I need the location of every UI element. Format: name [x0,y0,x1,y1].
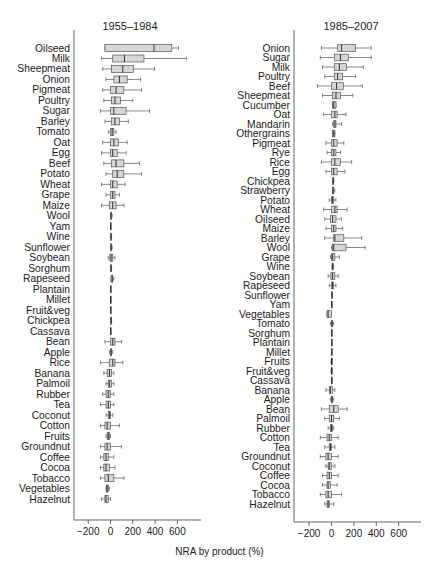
box-row-coffee: Coffee [40,452,114,463]
box-row-soybean: Soybean [29,252,115,263]
box [338,45,356,52]
box-row-fruits: Fruits [44,431,110,442]
box-row-rubber: Rubber [36,389,114,400]
box-row-coconut: Coconut [32,410,113,421]
category-label: Yam [50,221,70,232]
category-label: Tea [53,399,70,410]
box-row-tobacco: Tobacco [32,473,124,484]
x-tick-label: 400 [368,528,385,539]
category-label: Maize [43,200,71,211]
category-label: Milk [52,53,71,64]
box [332,168,338,175]
x-tick-label: 400 [147,526,164,537]
category-label: Cassava [30,326,70,337]
box [104,464,110,471]
category-label: Beef [49,158,70,169]
box-row-vegetables: Vegetables [19,483,109,494]
box [113,170,124,177]
box-row-cassava: Cassava [30,326,112,337]
category-label: Tomato [36,126,70,137]
box [111,181,118,188]
x-tick-label: 0 [329,528,335,539]
box-row-sugar: Sugar [43,105,150,116]
category-label: Poultry [38,95,71,106]
x-tick-label: 0 [108,526,114,537]
box-row-barley: Barley [41,116,129,127]
category-label: Potato [40,168,70,179]
box [333,102,336,109]
box-row-hazelnut: Hazelnut [29,494,110,505]
box-row-sunflower: Sunflower [24,242,112,253]
category-label: Sheepmeat [17,63,70,74]
category-label: Rubber [36,389,70,400]
category-label: Vegetables [19,483,70,494]
box-row-milk: Milk [52,53,187,64]
x-tick-label: −200 [298,528,321,539]
category-label: Wool [47,210,70,221]
panel-title: 1985–2007 [323,20,378,32]
category-label: Hazelnut [249,499,290,510]
category-label: Wine [47,231,71,242]
category-label: Fruit&veg [26,305,70,316]
box [334,54,348,61]
box [327,482,330,489]
x-tick-label: 600 [169,526,186,537]
box-row-bean: Bean [46,336,122,347]
category-label: Rapeseed [23,273,70,284]
box [111,149,118,156]
box [105,45,172,52]
box [332,140,338,147]
box [334,73,342,80]
category-label: Tobacco [32,473,71,484]
box [330,216,336,223]
box-row-tomato: Tomato [36,126,116,137]
box-row-palmoil: Palmoil [36,378,114,389]
panel-1: 1955–1984−2000200400600OilseedMilkSheepm… [17,20,201,537]
category-label: Chickpea [27,315,70,326]
box-row-oilseed: Oilseed [35,43,178,54]
box-row-pigmeat: Pigmeat [252,138,344,149]
box-row-wheat: Wheat [40,179,125,190]
box [112,160,124,167]
box [105,475,114,482]
box-row-yam: Yam [50,221,112,232]
box [329,387,332,394]
category-label: Coconut [32,410,70,421]
box-row-maize: Maize [43,200,124,211]
box [332,111,338,118]
x-tick-label: 200 [124,526,141,537]
category-label: Onion [43,74,71,85]
box-row-beef: Beef [49,158,140,169]
box-row-wine: Wine [47,231,112,242]
category-label: Sugar [43,105,71,116]
box [114,76,127,83]
x-axis-label: NRA by product (%) [0,546,439,557]
box [112,118,120,125]
category-label: Egg [52,147,71,158]
category-label: Coffee [40,452,70,463]
box [332,254,335,261]
box-row-rapeseed: Rapeseed [23,273,114,284]
category-label: Fruits [44,431,70,442]
panel-title: 1955–1984 [102,20,157,32]
box [111,86,124,93]
box-row-groundnut: Groundnut [21,441,121,452]
box [111,139,119,146]
category-label: Plantain [33,284,70,295]
box [333,244,346,251]
category-label: Oilseed [35,43,70,54]
x-tick-label: −200 [77,526,100,537]
box [326,491,332,498]
category-label: Wheat [40,179,70,190]
category-label: Groundnut [21,441,70,452]
box-row-pigmeat: Pigmeat [32,84,142,95]
box-row-millet: Millet [46,294,112,305]
category-label: Palmoil [36,378,70,389]
category-label: Hazelnut [29,494,70,505]
category-label: Rice [49,357,70,368]
box [111,107,127,114]
box-row-sheepmeat: Sheepmeat [17,63,154,74]
category-label: Oat [53,137,70,148]
box [113,55,144,62]
box-row-plantain: Plantain [253,337,333,348]
